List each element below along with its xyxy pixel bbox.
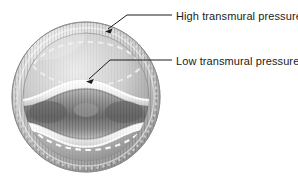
label-high-transmural-pressure: High transmural pressure [176,10,298,22]
leader-line-high-pressure [108,15,172,29]
vessel-body [12,21,160,172]
label-low-transmural-pressure: Low transmural pressure [176,55,298,67]
annotation-high-transmural-pressure[interactable]: High transmural pressure [105,10,298,34]
collapsible-tube-diagram: High transmural pressure Low transmural … [0,0,298,187]
